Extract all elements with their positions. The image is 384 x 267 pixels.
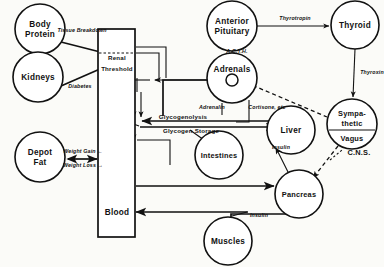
edge-adrenals-blood-left	[163, 80, 207, 116]
label-diabetes: Diabetes	[68, 83, 91, 89]
diagram-canvas: Renal Threshold Blood Body Protein Kidne…	[0, 0, 384, 267]
adrenals-label: Adrenals	[213, 65, 250, 74]
label-glycogenolysis: Glycogenolysis	[159, 113, 208, 120]
depot-fat-circle	[15, 132, 65, 182]
node-anterior-pituitary[interactable]: Anterior Pituitary	[207, 1, 257, 51]
adrenal-medulla-circle	[226, 74, 238, 86]
anterior-pituitary-label-line2: Pituitary	[214, 27, 249, 36]
label-cortisone: Cortisone, etc	[248, 104, 285, 110]
node-muscles[interactable]: Muscles	[204, 217, 252, 265]
edge-blood-upper-loop	[136, 47, 166, 78]
blood-label: Blood	[105, 208, 129, 217]
label-acth: A.C.T.H.	[225, 48, 248, 54]
vagus-label: Vagus	[341, 134, 364, 143]
liver-label: Liver	[281, 126, 302, 135]
label-thyrotropin: Thyrotropin	[279, 15, 311, 21]
node-intestines[interactable]: Intestines	[195, 131, 243, 179]
edge-cns-leader	[330, 150, 342, 160]
label-weight-loss: Weight Loss →	[63, 162, 103, 168]
edge-cortisone-drop	[236, 100, 249, 122]
node-pancreas[interactable]: Pancreas	[275, 170, 323, 218]
label-tissue-breakdown: Tissue Breakdown	[57, 27, 107, 33]
label-weight-gain: Weight Gain ←	[63, 148, 103, 154]
kidneys-label: Kidneys	[21, 73, 55, 82]
pancreas-label: Pancreas	[282, 190, 316, 199]
anterior-pituitary-label-line1: Anterior	[215, 17, 249, 26]
node-blood[interactable]: Renal Threshold Blood	[98, 29, 135, 237]
node-thyroid[interactable]: Thyroid	[331, 1, 379, 49]
body-protein-label-line1: Body	[29, 20, 51, 29]
node-adrenals[interactable]: Adrenals	[207, 53, 257, 103]
label-glycogen-storage: Glycogen Storage	[163, 127, 220, 134]
node-sympathetic-vagus[interactable]: Sympa- thetic Vagus	[327, 99, 377, 149]
muscles-label: Muscles	[211, 237, 245, 246]
node-depot-fat[interactable]: Depot Fat	[15, 132, 65, 182]
intestines-label: Intestines	[201, 151, 238, 160]
anterior-pituitary-circle	[207, 1, 257, 51]
body-protein-label-line2: Protein	[25, 30, 55, 39]
label-insulin-liver: Insulin	[272, 144, 291, 150]
sympathetic-label-line1: Sympa-	[338, 109, 366, 118]
thyroid-label: Thyroid	[339, 21, 371, 30]
blood-sugar-regulation-diagram: Renal Threshold Blood Body Protein Kidne…	[0, 0, 384, 267]
edge-blood-upper-loop2	[136, 53, 159, 78]
label-insulin-muscles: Insulin	[250, 212, 269, 218]
renal-label: Renal	[108, 54, 126, 61]
edge-blood-lower-loop	[137, 140, 170, 165]
label-thyroxin: Thyroxin	[360, 69, 384, 75]
node-kidneys[interactable]: Kidneys	[13, 52, 63, 102]
edge-thyroid-sympathetic	[353, 49, 355, 97]
depot-fat-label-line1: Depot	[28, 148, 52, 157]
threshold-label: Threshold	[101, 65, 133, 72]
edge-cns-pancreas-dashed	[313, 146, 338, 178]
depot-fat-label-line2: Fat	[33, 158, 46, 167]
sympathetic-label-line2: thetic	[342, 119, 363, 128]
label-adrenalin: Adrenalin	[198, 104, 225, 110]
label-cns: C.N.S.	[348, 148, 371, 157]
